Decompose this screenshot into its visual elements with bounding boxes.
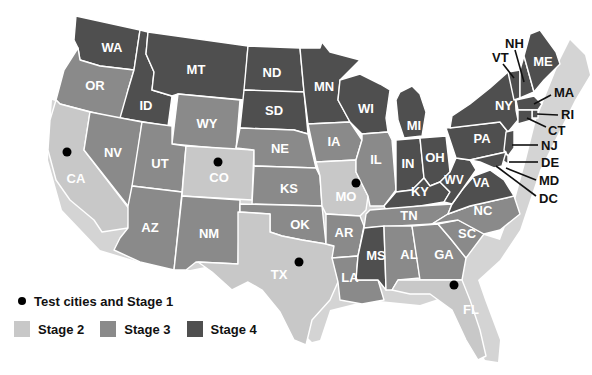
label-MO: MO: [336, 189, 357, 204]
test-city-dot-TX: [295, 258, 304, 267]
legend-stage3-label: Stage 3: [124, 322, 170, 337]
label-NY: NY: [495, 98, 513, 113]
label-NH: NH: [505, 36, 524, 51]
legend-stages: Stage 2 Stage 3 Stage 4: [14, 318, 273, 340]
label-KY: KY: [411, 184, 429, 199]
label-AR: AR: [335, 225, 354, 240]
label-LA: LA: [341, 270, 359, 285]
label-RI: RI: [561, 107, 574, 122]
label-MD: MD: [539, 173, 559, 188]
label-ME: ME: [533, 54, 553, 69]
label-CA: CA: [67, 171, 86, 186]
label-MI: MI: [407, 118, 421, 133]
label-TN: TN: [400, 208, 417, 223]
label-SC: SC: [458, 226, 477, 241]
label-WA: WA: [102, 40, 124, 55]
label-MA: MA: [554, 85, 575, 100]
test-city-dot-CO: [214, 158, 223, 167]
legend-stage4: Stage 4: [187, 321, 257, 337]
label-WI: WI: [358, 101, 374, 116]
legend-test-cities: Test cities and Stage 1: [14, 290, 273, 312]
label-MS: MS: [366, 248, 386, 263]
label-DE: DE: [541, 155, 559, 170]
label-NM: NM: [199, 226, 219, 241]
label-AZ: AZ: [141, 220, 158, 235]
label-GA: GA: [434, 247, 454, 262]
label-PA: PA: [473, 131, 491, 146]
label-OK: OK: [290, 217, 310, 232]
label-NV: NV: [104, 145, 122, 160]
label-TX: TX: [271, 267, 288, 282]
label-WY: WY: [197, 116, 218, 131]
label-IA: IA: [328, 134, 342, 149]
label-CT: CT: [548, 123, 565, 138]
stage3-swatch-icon: [100, 321, 116, 337]
label-ND: ND: [263, 65, 282, 80]
label-VT: VT: [492, 50, 509, 65]
label-NJ: NJ: [541, 138, 558, 153]
label-IN: IN: [402, 156, 415, 171]
stage2-swatch-icon: [14, 321, 30, 337]
test-city-dot-CA: [63, 148, 72, 157]
dot-icon: [18, 297, 26, 305]
label-KS: KS: [280, 181, 298, 196]
label-DC: DC: [539, 191, 558, 206]
legend-test-cities-label: Test cities and Stage 1: [34, 294, 173, 309]
label-UT: UT: [151, 156, 168, 171]
label-MT: MT: [187, 62, 206, 77]
label-SD: SD: [265, 103, 283, 118]
label-OH: OH: [425, 150, 445, 165]
label-VA: VA: [472, 175, 490, 190]
test-city-dot-MO: [352, 179, 361, 188]
legend: Test cities and Stage 1 Stage 2 Stage 3 …: [14, 290, 273, 340]
legend-stage3: Stage 3: [100, 321, 170, 337]
label-IL: IL: [370, 152, 382, 167]
label-ID: ID: [140, 98, 153, 113]
state-CT[interactable]: [518, 110, 532, 124]
label-NC: NC: [474, 203, 493, 218]
label-FL: FL: [463, 302, 479, 317]
label-CO: CO: [209, 170, 229, 185]
label-NE: NE: [271, 141, 289, 156]
label-MN: MN: [314, 79, 334, 94]
legend-stage2: Stage 2: [14, 321, 84, 337]
label-OR: OR: [85, 78, 105, 93]
legend-stage2-label: Stage 2: [38, 322, 84, 337]
label-AL: AL: [400, 247, 417, 262]
legend-stage4-label: Stage 4: [211, 322, 257, 337]
stage4-swatch-icon: [187, 321, 203, 337]
test-city-dot-FL: [450, 281, 459, 290]
label-WV: WV: [444, 173, 463, 187]
